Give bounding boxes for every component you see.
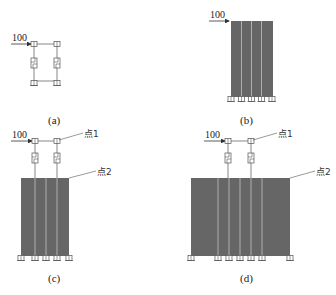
support-icon [236, 256, 244, 261]
load-label: 100 [12, 129, 27, 140]
caption-d: (d) [240, 272, 253, 285]
point2-leader [69, 171, 96, 178]
support-icon [187, 256, 195, 261]
panel-c: 100 点1 点2 (c) [11, 129, 112, 285]
damper-icon [31, 58, 37, 68]
point1-label: 点1 [84, 129, 99, 139]
panel-a: 100 (a) [11, 32, 61, 127]
support-icon [214, 256, 222, 261]
load-label: 100 [210, 9, 225, 20]
caption-c: (c) [48, 272, 61, 285]
node-icon [54, 139, 60, 144]
point1-leader [59, 133, 83, 140]
shear-wall [231, 21, 273, 97]
panel-d: 100 点1 点2 (d) [187, 129, 331, 285]
point1-leader [253, 133, 277, 140]
support-icon [286, 256, 294, 261]
load-label: 100 [205, 129, 220, 140]
support-icon [31, 256, 39, 261]
node-icon [248, 139, 254, 144]
support-icon [53, 256, 61, 261]
support-icon [42, 256, 50, 261]
support-icon [65, 256, 73, 261]
point2-label: 点2 [316, 167, 331, 177]
caption-a: (a) [48, 114, 61, 127]
node-icon [54, 42, 60, 47]
frame [34, 44, 57, 83]
damper-icon [54, 153, 60, 163]
point2-label: 点2 [97, 167, 112, 177]
support-icon [247, 256, 255, 261]
support-icon [17, 256, 25, 261]
shear-wall [191, 178, 290, 256]
frame [228, 141, 251, 178]
damper-icon [248, 153, 254, 163]
node-icon [32, 139, 38, 144]
node-icon [31, 42, 37, 47]
damper-icon [32, 153, 38, 163]
point1-label: 点1 [278, 129, 293, 139]
point2-leader [290, 171, 315, 178]
damper-icon [225, 153, 231, 163]
support-icon [225, 256, 233, 261]
shear-wall [21, 178, 69, 256]
support-icon [238, 97, 246, 102]
support-icon [248, 97, 256, 102]
support-icon [53, 81, 61, 86]
support-icon [30, 81, 38, 86]
support-icon [258, 256, 266, 261]
load-label: 100 [12, 32, 27, 43]
support-icon [268, 97, 276, 102]
figure-canvas: 100 (a) 100 (b) [0, 0, 336, 295]
support-icon [227, 97, 235, 102]
damper-icon [54, 58, 60, 68]
panel-b: 100 (b) [209, 9, 276, 127]
node-icon [225, 139, 231, 144]
support-icon [258, 97, 266, 102]
caption-b: (b) [240, 114, 253, 127]
